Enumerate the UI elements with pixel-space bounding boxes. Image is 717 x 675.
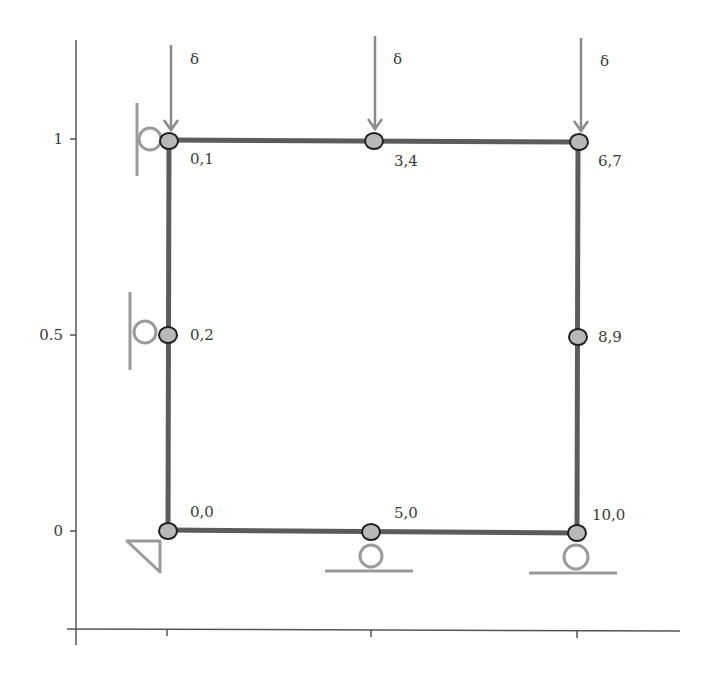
node-0-1 xyxy=(160,133,178,149)
pin-support-icon xyxy=(127,541,160,572)
down-arrow-icon xyxy=(574,38,588,131)
node-label: 3,4 xyxy=(394,152,418,170)
roller-support-icon xyxy=(529,545,617,573)
node-10-0 xyxy=(568,525,586,541)
node-label: 10,0 xyxy=(592,506,625,524)
node-labels: 0,1 3,4 6,7 0,2 8,9 0,0 5,0 10,0 xyxy=(190,150,625,524)
members xyxy=(168,140,578,533)
load-label-delta: δ xyxy=(190,50,199,68)
load-label-delta: δ xyxy=(393,50,402,68)
roller-support-icon xyxy=(325,545,413,571)
roller-support-icon xyxy=(130,292,156,370)
node-6-7 xyxy=(570,134,588,150)
down-arrow-icon xyxy=(368,36,382,129)
node-label: 0,1 xyxy=(190,150,214,168)
node-label: 0,0 xyxy=(190,503,214,521)
node-label: 6,7 xyxy=(598,152,622,170)
node-label: 8,9 xyxy=(598,328,622,346)
x-axis xyxy=(67,629,680,631)
down-arrow-icon xyxy=(164,45,178,130)
node-label: 5,0 xyxy=(394,504,418,522)
node-0-2 xyxy=(159,327,177,343)
node-3-4 xyxy=(365,133,383,149)
node-5-0 xyxy=(362,524,380,540)
y-tick-label-0: 0 xyxy=(53,522,63,540)
node-label: 0,2 xyxy=(190,326,214,344)
nodes xyxy=(159,133,588,541)
node-8-9 xyxy=(569,329,587,345)
frame-diagram: 1 0.5 0 xyxy=(0,0,717,675)
y-tick-label-1: 1 xyxy=(53,130,63,148)
y-tick-label-0.5: 0.5 xyxy=(39,326,63,344)
node-0-0 xyxy=(159,523,177,539)
load-label-delta: δ xyxy=(600,52,609,70)
roller-support-icon xyxy=(137,103,161,176)
loads: δ δ δ xyxy=(164,36,609,131)
